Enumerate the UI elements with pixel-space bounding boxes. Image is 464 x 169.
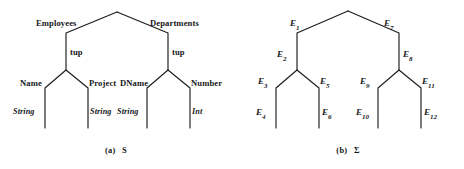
edge-e8-to-e9 bbox=[378, 70, 399, 128]
caption-b-index: (b) bbox=[336, 146, 347, 155]
label-e4: E4 bbox=[256, 108, 266, 117]
label-e11-sub: 11 bbox=[428, 82, 435, 90]
label-number: Number bbox=[191, 79, 222, 88]
edge-e8-to-e11 bbox=[399, 70, 421, 128]
label-e9: E9 bbox=[360, 77, 370, 86]
label-e6-sub: 6 bbox=[328, 113, 332, 121]
label-e7: E7 bbox=[384, 19, 394, 28]
label-tup-right: tup bbox=[172, 48, 185, 57]
label-e3: E3 bbox=[258, 77, 268, 86]
label-departments: Departments bbox=[150, 19, 199, 28]
caption-b-symbol: Σ bbox=[350, 146, 360, 155]
label-e2-sub: 2 bbox=[283, 55, 287, 63]
label-tup-left: tup bbox=[70, 48, 83, 57]
edge-left-tup-to-project bbox=[66, 70, 88, 128]
label-e10-sub: 10 bbox=[362, 113, 369, 121]
tree-edges-b bbox=[232, 0, 464, 145]
label-e12-sub: 12 bbox=[430, 113, 437, 121]
label-e1-sub: 1 bbox=[296, 24, 300, 32]
leaf-type-string-1: String bbox=[13, 108, 35, 116]
edge-root-to-e2 bbox=[297, 11, 348, 70]
label-e2: E2 bbox=[277, 50, 287, 59]
label-e12: E12 bbox=[424, 108, 437, 117]
label-e4-sub: 4 bbox=[262, 113, 266, 121]
label-e1: E1 bbox=[290, 19, 300, 28]
caption-a-symbol: S bbox=[118, 146, 127, 155]
label-e10: E10 bbox=[356, 108, 369, 117]
label-employees: Employees bbox=[36, 19, 77, 28]
label-e8: E8 bbox=[403, 50, 413, 59]
label-e7-sub: 7 bbox=[390, 24, 394, 32]
label-e5: E5 bbox=[320, 77, 330, 86]
label-e5-sub: 5 bbox=[326, 82, 330, 90]
edge-left-tup-to-name bbox=[45, 70, 66, 128]
label-e6: E6 bbox=[322, 108, 332, 117]
label-e11: E11 bbox=[422, 77, 435, 86]
label-name: Name bbox=[20, 79, 42, 88]
figure-symbol-tree: E1 E7 E2 E8 E3 E5 E9 E11 E4 E6 E10 E12 (… bbox=[232, 0, 464, 169]
leaf-type-string-3: String bbox=[117, 108, 139, 116]
edge-right-tup-to-number bbox=[168, 70, 190, 128]
edge-e2-to-e3 bbox=[276, 70, 297, 128]
caption-a: (a) S bbox=[0, 146, 232, 155]
caption-b: (b) Σ bbox=[232, 146, 464, 155]
edge-right-tup-to-dname bbox=[147, 70, 168, 128]
label-project: Project bbox=[89, 79, 116, 88]
edge-e2-to-e5 bbox=[297, 70, 319, 128]
caption-a-index: (a) bbox=[105, 146, 116, 155]
label-e8-sub: 8 bbox=[409, 55, 413, 63]
figure-schema-tree: Employees Departments tup tup Name Proje… bbox=[0, 0, 232, 169]
label-e3-sub: 3 bbox=[264, 82, 268, 90]
label-dname: DName bbox=[120, 79, 148, 88]
label-e9-sub: 9 bbox=[366, 82, 370, 90]
leaf-type-int: Int bbox=[192, 108, 202, 116]
leaf-type-string-2: String bbox=[90, 108, 112, 116]
